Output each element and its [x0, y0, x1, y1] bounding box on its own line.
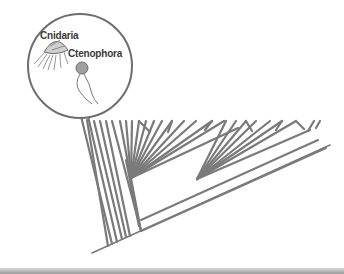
- label-cnidaria: Cnidaria: [40, 30, 78, 41]
- phylogeny-figure: Cnidaria Ctenophora: [0, 0, 344, 274]
- bottom-border-bar: [0, 268, 344, 274]
- tree-diagram: [0, 0, 344, 274]
- label-ctenophora: Ctenophora: [68, 48, 122, 59]
- tree-branches: [80, 112, 330, 253]
